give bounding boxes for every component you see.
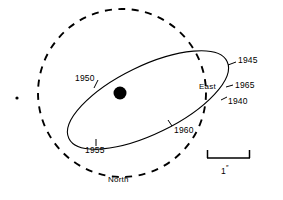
epoch-1965-label: 1965 bbox=[235, 81, 255, 90]
tick-1940 bbox=[221, 97, 227, 100]
epoch-1955-label: 1955 bbox=[85, 146, 105, 155]
epoch-1950-label: 1950 bbox=[75, 74, 95, 83]
corner-marker-dot bbox=[15, 96, 18, 99]
epoch-1960-label: 1960 bbox=[174, 126, 194, 135]
epoch-1940-label: 1940 bbox=[228, 97, 248, 106]
tick-1945 bbox=[228, 62, 236, 65]
east-label: East bbox=[199, 83, 216, 91]
tick-1965 bbox=[226, 85, 233, 87]
orbit-ellipse bbox=[54, 31, 242, 169]
epoch-1945-label: 1945 bbox=[238, 56, 258, 65]
primary-star-dot bbox=[114, 87, 127, 100]
tick-1960 bbox=[168, 120, 172, 126]
orbit-diagram-figure: 1950 1955 1960 1940 1945 1965 East North… bbox=[0, 0, 283, 200]
north-label: North bbox=[108, 176, 129, 184]
arcsecond-symbol: ″ bbox=[226, 164, 228, 171]
scale-bar-label: 1″ bbox=[221, 164, 228, 175]
